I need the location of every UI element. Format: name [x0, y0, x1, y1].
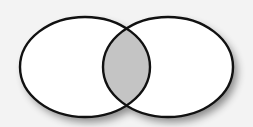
venn-svg — [0, 0, 253, 127]
venn-diagram — [0, 0, 253, 127]
